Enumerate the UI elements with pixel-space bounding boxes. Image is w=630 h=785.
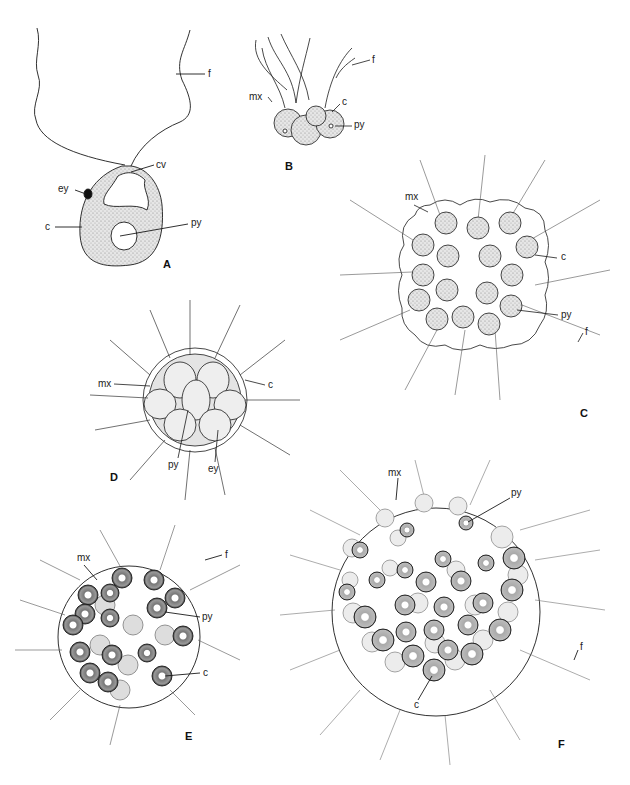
label-f-c: c [414, 700, 419, 710]
panel-c [340, 155, 610, 400]
panel-b [255, 34, 370, 145]
figure-plate [0, 0, 630, 785]
label-b-mx: mx [249, 92, 262, 102]
label-c-c: c [561, 252, 566, 262]
label-b-py: py [354, 120, 365, 130]
panel-label-f: F [558, 738, 565, 750]
label-a-ey: ey [58, 184, 69, 194]
label-f-py: py [511, 488, 522, 498]
label-c-f: f [585, 327, 588, 337]
label-a-py: py [191, 218, 202, 228]
panel-f [280, 460, 605, 765]
label-b-f: f [372, 55, 375, 65]
label-a-c: c [45, 222, 50, 232]
panel-label-a: A [163, 258, 171, 270]
label-d-mx: mx [98, 379, 111, 389]
label-a-cv: cv [156, 160, 166, 170]
label-a-f: f [208, 69, 211, 79]
panel-a [34, 28, 205, 266]
panel-label-d: D [110, 471, 118, 483]
panel-d [90, 300, 300, 500]
label-f-mx: mx [388, 468, 401, 478]
label-c-py: py [561, 310, 572, 320]
label-d-c: c [268, 380, 273, 390]
panel-label-b: B [285, 160, 293, 172]
label-d-py: py [168, 460, 179, 470]
label-d-ey: ey [208, 464, 219, 474]
panel-label-c: C [580, 407, 588, 419]
label-f-f: f [580, 642, 583, 652]
label-e-c: c [203, 668, 208, 678]
label-e-py: py [202, 612, 213, 622]
label-e-mx: mx [77, 553, 90, 563]
label-b-c: c [342, 97, 347, 107]
label-c-mx: mx [405, 192, 418, 202]
label-e-f: f [225, 550, 228, 560]
panel-e [15, 525, 240, 745]
panel-label-e: E [185, 730, 192, 742]
